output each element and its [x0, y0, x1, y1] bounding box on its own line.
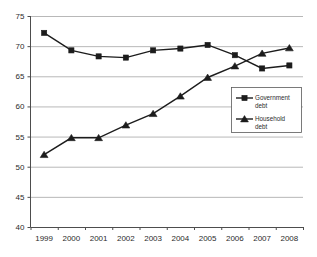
x-tick-label: 2001 [90, 234, 108, 243]
legend-label-line1: Government [255, 94, 290, 101]
x-tick-label: 2004 [171, 234, 189, 243]
legend-label-line1: Household [255, 115, 286, 122]
line-chart: 4045505560657075 19992000200120022003200… [0, 0, 317, 257]
y-tick-label: 50 [16, 163, 25, 172]
x-tick-label: 2002 [117, 234, 135, 243]
y-tick-label: 60 [16, 102, 25, 111]
x-tick-label: 2007 [253, 234, 271, 243]
legend-label-line2: debt [255, 102, 268, 109]
x-tick-label: 1999 [35, 234, 53, 243]
chart-legend[interactable]: GovernmentdebtHouseholddebt [232, 88, 302, 133]
y-tick-label: 70 [16, 42, 25, 51]
data-point-marker [205, 42, 210, 47]
x-tick-label: 2006 [226, 234, 244, 243]
data-point-marker [123, 55, 128, 60]
y-tick-label: 45 [16, 193, 25, 202]
legend-sample-marker [242, 95, 247, 100]
data-point-marker [69, 48, 74, 53]
y-tick-label: 55 [16, 133, 25, 142]
data-point-marker [178, 46, 183, 51]
x-tick-label: 2003 [144, 234, 162, 243]
x-tick-label: 2005 [199, 234, 217, 243]
y-tick-label: 40 [16, 223, 25, 232]
data-point-marker [42, 30, 47, 35]
data-point-marker [260, 66, 265, 71]
chart-canvas: 4045505560657075 19992000200120022003200… [0, 0, 317, 257]
x-tick-label: 2008 [280, 234, 298, 243]
legend-label-line2: debt [255, 123, 268, 130]
data-point-marker [151, 48, 156, 53]
y-tick-label: 75 [16, 12, 25, 21]
data-point-marker [96, 54, 101, 59]
data-point-marker [287, 63, 292, 68]
y-tick-label: 65 [16, 72, 25, 81]
data-point-marker [232, 53, 237, 58]
x-tick-label: 2000 [62, 234, 80, 243]
